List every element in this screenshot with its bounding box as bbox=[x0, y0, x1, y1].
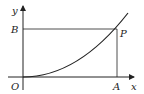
label-a: A bbox=[112, 81, 120, 92]
curve bbox=[23, 13, 128, 77]
label-b: B bbox=[10, 24, 18, 35]
label-p: P bbox=[119, 28, 127, 39]
label-y: y bbox=[11, 5, 18, 16]
coordinate-diagram: y B P O A x bbox=[0, 0, 144, 94]
label-x: x bbox=[131, 81, 137, 92]
label-o: O bbox=[11, 81, 19, 92]
